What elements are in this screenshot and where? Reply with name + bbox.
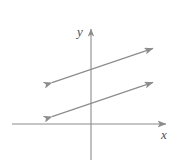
math-figure-coordinate-plane: y x bbox=[0, 0, 177, 166]
lower-line-segment bbox=[52, 82, 153, 116]
upper-parallel-line bbox=[52, 48, 153, 82]
x-axis-label: x bbox=[160, 127, 167, 142]
coordinate-plane-svg: y x bbox=[0, 0, 177, 166]
lower-parallel-line bbox=[52, 82, 153, 116]
y-axis-label: y bbox=[75, 24, 83, 39]
upper-line-segment bbox=[52, 48, 153, 82]
